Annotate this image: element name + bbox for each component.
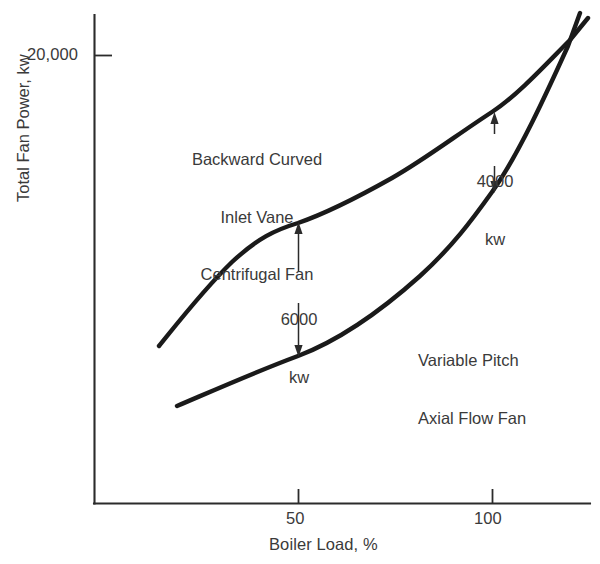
annotation-label-4000-value: 4000 bbox=[460, 172, 530, 191]
x-tick-label-50: 50 bbox=[286, 509, 305, 528]
series-label-centrifugal-fan-line1: Backward Curved bbox=[167, 150, 347, 169]
x-tick-label-100: 100 bbox=[474, 509, 502, 528]
annotation-label-4000-kw: 4000 kw bbox=[460, 134, 530, 287]
annotation-label-6000-kw: 6000 kw bbox=[264, 272, 334, 425]
series-label-centrifugal-fan-line2: Inlet Vane bbox=[167, 208, 347, 227]
series-label-axial-flow-fan-line1: Variable Pitch bbox=[418, 351, 578, 370]
annotation-label-6000-value: 6000 bbox=[264, 310, 334, 329]
x-axis-title: Boiler Load, % bbox=[269, 535, 378, 554]
series-label-axial-flow-fan-line2: Axial Flow Fan bbox=[418, 409, 578, 428]
y-tick-label-20000: 20,000 bbox=[27, 45, 78, 64]
annotation-label-6000-unit: kw bbox=[264, 368, 334, 387]
annotation-label-4000-unit: kw bbox=[460, 230, 530, 249]
fan-power-chart-figure: 20,000 50 100 Total Fan Power, kw Boiler… bbox=[0, 0, 600, 564]
series-label-axial-flow-fan: Variable Pitch Axial Flow Fan bbox=[418, 313, 578, 466]
